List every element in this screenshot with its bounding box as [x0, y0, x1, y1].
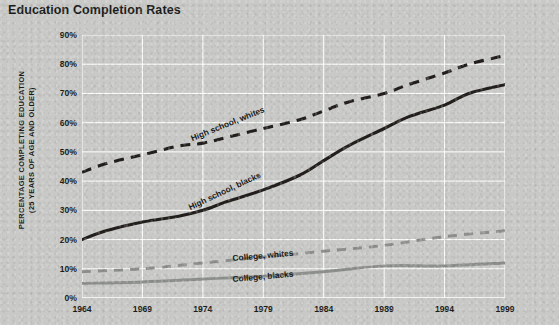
x-tick-label: 1989	[375, 304, 394, 314]
y-tick-label: 0%	[65, 293, 77, 303]
y-tick-label: 20%	[60, 235, 77, 245]
line-chart	[82, 35, 505, 298]
x-tick-label: 1984	[314, 304, 333, 314]
y-tick-label: 60%	[60, 118, 77, 128]
y-tick-label: 40%	[60, 176, 77, 186]
y-axis-label-line1: PERCENTAGE COMPLETING EDUCATION	[17, 43, 27, 258]
x-tick-label: 1964	[72, 304, 91, 314]
y-tick-label: 70%	[60, 88, 77, 98]
x-tick-label: 1994	[435, 304, 454, 314]
x-tick-label: 1999	[495, 304, 514, 314]
x-tick-label: 1974	[193, 304, 212, 314]
x-tick-label: 1969	[133, 304, 152, 314]
y-axis-label-line2: (25 YEARS OF AGE AND OLDER)	[27, 43, 37, 258]
y-tick-label: 80%	[60, 59, 77, 69]
plot-area: 0%10%20%30%40%50%60%70%80%90% 1964196919…	[82, 35, 505, 298]
y-tick-label: 10%	[60, 264, 77, 274]
y-tick-label: 50%	[60, 147, 77, 157]
y-axis-label: PERCENTAGE COMPLETING EDUCATION (25 YEAR…	[17, 43, 37, 258]
y-tick-label: 30%	[60, 205, 77, 215]
y-tick-label: 90%	[60, 30, 77, 40]
x-tick-label: 1979	[254, 304, 273, 314]
chart-title: Education Completion Rates	[8, 3, 181, 17]
